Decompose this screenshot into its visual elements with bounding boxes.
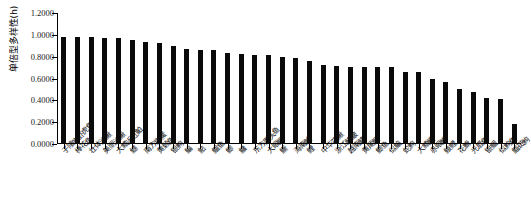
x-tick-mark <box>105 144 106 149</box>
x-tick-mark <box>391 144 392 149</box>
x-tick-mark <box>446 144 447 149</box>
x-tick-mark <box>323 144 324 149</box>
x-tick-mark <box>241 144 242 149</box>
x-tick-mark <box>487 144 488 149</box>
y-tick-mark <box>52 57 57 58</box>
x-tick-mark <box>419 144 420 149</box>
y-tick-mark <box>52 100 57 101</box>
x-tick-mark <box>159 144 160 149</box>
x-tick-label: 鳊 <box>184 145 194 155</box>
x-tick-mark <box>473 144 474 149</box>
y-tick-mark <box>52 122 57 123</box>
x-tick-mark <box>309 144 310 149</box>
x-tick-mark <box>350 144 351 149</box>
y-tick-mark <box>52 79 57 80</box>
x-tick-label: 鲫 <box>225 145 235 155</box>
x-tick-mark <box>77 144 78 149</box>
x-tick-label: 鲤 <box>306 145 316 155</box>
y-tick-mark <box>52 144 57 145</box>
x-tick-mark <box>378 144 379 149</box>
x-tick-mark <box>214 144 215 149</box>
x-tick-mark <box>146 144 147 149</box>
x-tick-mark <box>405 144 406 149</box>
x-tick-mark <box>200 144 201 149</box>
y-tick-mark <box>52 13 57 14</box>
x-tick-mark <box>296 144 297 149</box>
x-tick-mark <box>269 144 270 149</box>
x-tick-label: 鳡 <box>129 145 139 155</box>
x-tick-mark <box>282 144 283 149</box>
x-tick-mark <box>364 144 365 149</box>
x-tick-mark <box>337 144 338 149</box>
x-tick-label: 鲇 <box>197 145 207 155</box>
x-tick-mark <box>118 144 119 149</box>
y-tick-mark <box>52 35 57 36</box>
x-tick-mark <box>64 144 65 149</box>
x-tick-mark <box>501 144 502 149</box>
x-tick-mark <box>228 144 229 149</box>
x-tick-label: 鳙 <box>238 145 248 155</box>
x-tick-mark <box>514 144 515 149</box>
x-tick-mark <box>91 144 92 149</box>
x-tick-mark <box>187 144 188 149</box>
x-tick-mark <box>255 144 256 149</box>
x-tick-mark <box>173 144 174 149</box>
x-tick-mark <box>432 144 433 149</box>
x-tick-mark <box>132 144 133 149</box>
x-tick-mark <box>460 144 461 149</box>
x-tick-label: 鳜 <box>279 145 289 155</box>
